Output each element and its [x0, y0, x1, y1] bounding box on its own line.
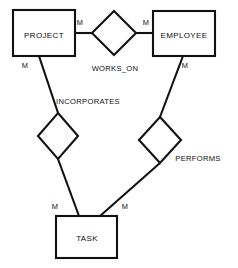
cardinality-task-incorporates: M: [52, 202, 58, 211]
er-diagram-canvas: PROJECT EMPLOYEE TASK WORKS_ON INCORPORA…: [0, 0, 238, 268]
relationship-works-on[interactable]: [92, 11, 136, 55]
relationship-performs-label: PERFORMS: [175, 154, 220, 163]
connector-incorporates-task: [58, 159, 79, 216]
cardinality-task-performs: M: [122, 202, 128, 211]
cardinality-project-incorporates: M: [22, 61, 28, 70]
entity-project-label: PROJECT: [24, 31, 64, 40]
er-diagram-svg: PROJECT EMPLOYEE TASK WORKS_ON INCORPORA…: [0, 0, 238, 268]
relationship-works-on-diamond[interactable]: [92, 11, 136, 55]
entity-employee[interactable]: EMPLOYEE: [153, 11, 215, 56]
relationship-incorporates[interactable]: [38, 113, 78, 159]
cardinality-project-works-on: M: [77, 18, 83, 27]
connector-performs-task: [100, 163, 160, 216]
relationship-incorporates-diamond[interactable]: [38, 113, 78, 159]
cardinality-employee-performs: M: [182, 61, 188, 70]
entity-employee-label: EMPLOYEE: [161, 31, 208, 40]
connector-employee-performs: [160, 56, 183, 117]
entity-project[interactable]: PROJECT: [13, 10, 75, 56]
relationship-incorporates-label: INCORPORATES: [56, 97, 120, 106]
relationship-works-on-label: WORKS_ON: [92, 64, 139, 73]
entity-task[interactable]: TASK: [56, 216, 117, 258]
cardinality-employee-works-on: M: [143, 18, 149, 27]
entity-task-label: TASK: [76, 234, 98, 243]
